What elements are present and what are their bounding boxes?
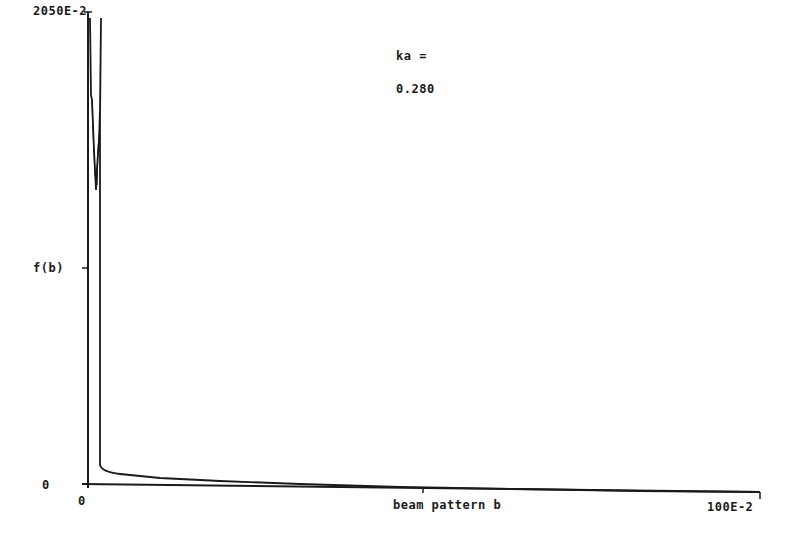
x-min-label: 0 [78, 494, 86, 508]
y-axis-label: f(b) [33, 261, 64, 275]
x-axis-label: beam pattern b [393, 498, 501, 512]
y-min-label: 0 [42, 478, 50, 492]
y-max-label: 2050E-2 [33, 4, 87, 18]
x-max-label: 100E-2 [707, 500, 753, 514]
ka-value: 0.280 [396, 82, 435, 96]
ka-label: ka = [396, 49, 427, 63]
